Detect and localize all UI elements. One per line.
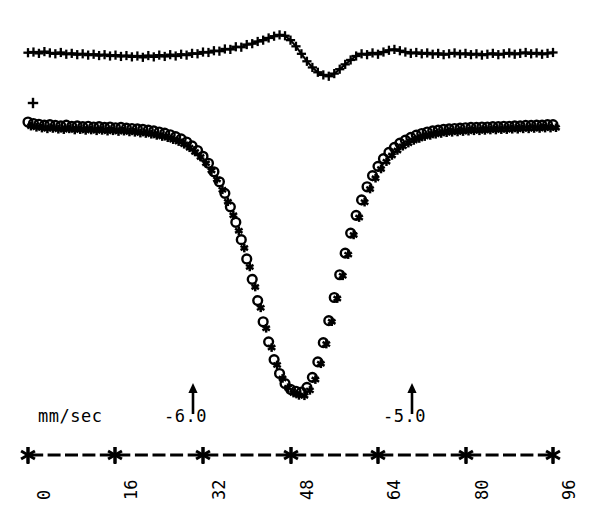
axis-unit-label: mm/sec (38, 406, 102, 426)
mossbauer-spectrum-figure: mm/sec -6.0 -5.0 0 16 32 48 64 80 96 (0, 0, 590, 511)
x-tick-label-6: 96 (559, 480, 579, 500)
x-tick-label-0: 0 (34, 490, 54, 500)
x-tick-label-3: 48 (297, 480, 317, 500)
x-axis-layer (21, 447, 560, 464)
x-tick-label-4: 64 (384, 480, 404, 500)
main-spectrum-layer (24, 98, 560, 400)
x-tick-label-1: 16 (121, 480, 141, 500)
velocity-marker-6-label: -6.0 (164, 406, 207, 426)
x-tick-label-5: 80 (472, 480, 492, 500)
residual-trace-layer (23, 30, 557, 81)
x-tick-label-2: 32 (209, 480, 229, 500)
spectrum-plot-canvas (0, 0, 590, 511)
velocity-marker-5-label: -5.0 (383, 406, 426, 426)
